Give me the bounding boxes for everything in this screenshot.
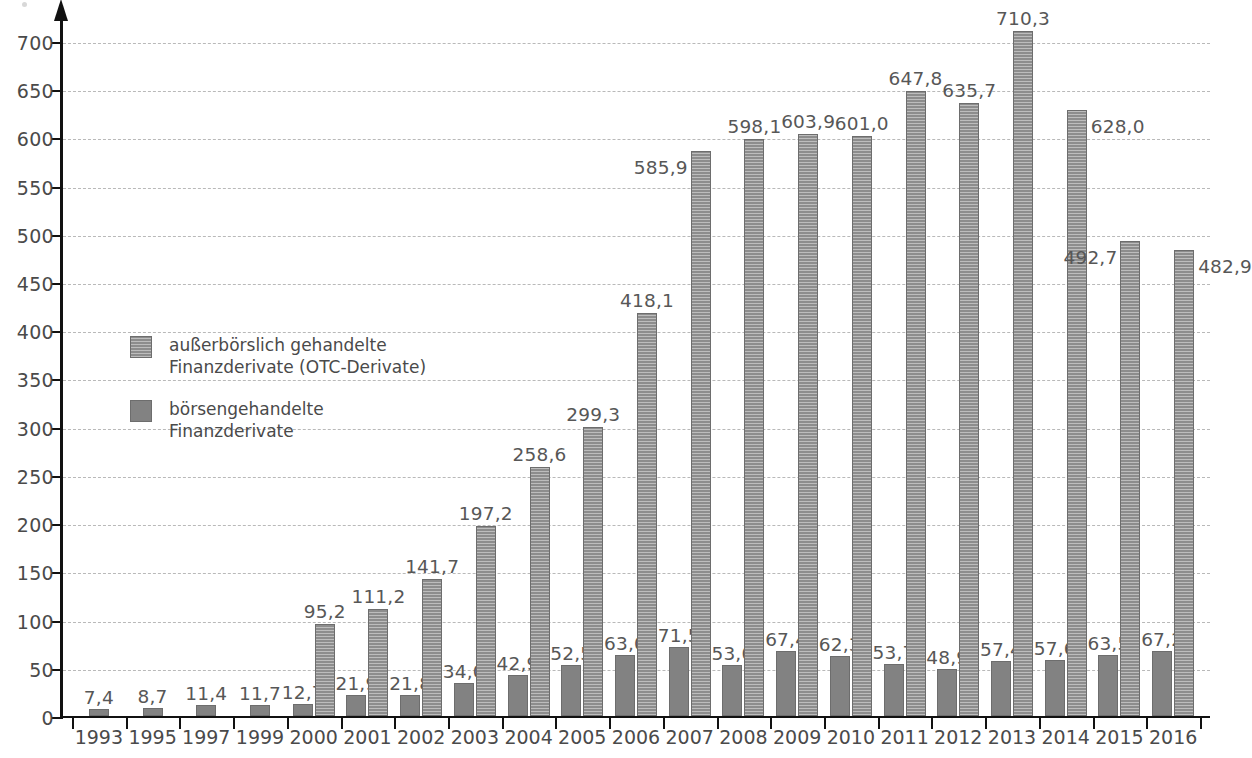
x-axis-tick-label: 2000 [290,726,338,748]
x-axis-tick-label: 2011 [880,726,928,748]
x-axis-tick-label: 1993 [75,726,123,748]
bar-value-label: 492,7 [1063,247,1117,268]
bar-exchange-traded: 11,4 [196,705,216,716]
bar-otc: 111,2 [368,609,388,716]
bar-group: 63,5492,7 [1093,241,1147,716]
bar-otc: 710,3 [1013,31,1033,716]
y-axis-tick-label: 700 [17,32,54,54]
bar-value-label: 8,7 [138,686,168,707]
bar-value-label: 95,2 [304,601,346,622]
bar-group: 12,795,2 [287,624,341,716]
bar-exchange-traded: 62,3 [830,656,850,716]
bar-exchange-traded: 11,7 [250,705,270,716]
bar-otc: 418,1 [637,313,657,716]
y-axis-tick-label: 650 [17,80,54,102]
x-axis-tick [1200,718,1202,729]
y-axis-tick-label: 200 [17,514,54,536]
x-axis-tick-label: 2012 [934,726,982,748]
bar-otc: 598,1 [744,139,764,716]
legend-item-exchange-traded: börsengehandelte Finanzderivate [130,398,430,442]
bar-group: 21,9111,2 [341,609,395,716]
legend-label-otc-line1: außerbörslich gehandelte [169,334,426,356]
bar-group: 7,4 [72,709,126,716]
bar-group: 67,4603,9 [770,134,824,716]
bar-group: 71,5585,9 [663,151,717,716]
y-axis-tick-label: 150 [17,562,54,584]
bar-value-label: 710,3 [996,8,1050,29]
y-axis-tick-label: 600 [17,128,54,150]
bar-group: 21,8141,7 [394,579,448,716]
bar-group: 53,0598,1 [717,139,771,716]
x-axis-tick-label: 2007 [666,726,714,748]
legend-swatch-exchange-traded-icon [130,400,152,422]
legend-label-otc-line2: Finanzderivate (OTC-Derivate) [169,356,426,378]
bar-group: 52,5299,3 [555,427,609,716]
y-axis-tick-label: 50 [29,659,54,681]
bar-exchange-traded: 12,7 [293,704,313,716]
bar-exchange-traded: 71,5 [669,647,689,716]
bar-group: 11,4 [179,705,233,716]
bar-group: 63,0418,1 [609,313,663,716]
x-axis-tick-label: 1999 [236,726,284,748]
x-axis-tick-label: 2009 [773,726,821,748]
bar-exchange-traded: 53,7 [884,664,904,716]
bar-value-label: 11,4 [185,683,227,704]
bar-group: 67,2482,9 [1146,250,1200,716]
bar-exchange-traded: 21,8 [400,695,420,716]
x-axis-tick-label: 2003 [451,726,499,748]
x-axis-tick-label: 2015 [1095,726,1143,748]
bar-value-label: 11,7 [239,683,281,704]
bar-exchange-traded: 8,7 [143,708,163,716]
x-axis-tick-label: 2002 [397,726,445,748]
bar-exchange-traded: 42,9 [508,675,528,716]
legend-label-exchange-traded-line1: börsengehandelte [169,398,324,420]
bar-exchange-traded: 52,5 [561,665,581,716]
x-axis-tick-label: 2001 [343,726,391,748]
x-axis-tick-label: 2005 [558,726,606,748]
bar-group: 53,7647,8 [878,91,932,716]
x-axis-tick-label: 2013 [988,726,1036,748]
bar-value-label: 7,4 [84,687,114,708]
legend-label-exchange-traded: börsengehandelte Finanzderivate [169,398,324,442]
legend-label-exchange-traded-line2: Finanzderivate [169,420,324,442]
bar-value-label: 585,9 [634,157,688,178]
y-axis-tick-label: 450 [17,273,54,295]
x-axis-tick-label: 1997 [182,726,230,748]
bar-value-label: 628,0 [1091,116,1145,137]
bar-otc: 482,9 [1174,250,1194,716]
bar-exchange-traded: 48,9 [937,669,957,716]
bar-otc: 601,0 [852,136,872,716]
bar-exchange-traded: 21,9 [346,695,366,716]
y-axis-tick-label: 250 [17,466,54,488]
x-axis-tick-label: 2006 [612,726,660,748]
y-axis-tick-label: 300 [17,418,54,440]
bar-otc: 95,2 [315,624,335,716]
bar-value-label: 603,9 [781,111,835,132]
bar-exchange-traded: 53,0 [722,665,742,716]
bar-otc: 258,6 [530,467,550,716]
legend-item-otc: außerbörslich gehandelte Finanzderivate … [130,334,430,378]
bar-group: 11,7 [233,705,287,716]
x-axis-tick-label: 2004 [504,726,552,748]
bar-group: 8,7 [126,708,180,716]
x-axis-tick-label: 1995 [128,726,176,748]
y-axis-tick-label: 500 [17,225,54,247]
bar-value-label: 482,9 [1198,256,1252,277]
y-axis-arrow-icon [54,0,68,21]
bar-otc: 197,2 [476,526,496,716]
bar-exchange-traded: 57,6 [1045,660,1065,716]
bar-exchange-traded: 67,2 [1152,651,1172,716]
bar-otc: 647,8 [906,91,926,716]
legend-label-otc: außerbörslich gehandelte Finanzderivate … [169,334,426,378]
bar-otc: 635,7 [959,103,979,716]
bar-exchange-traded: 7,4 [89,709,109,716]
bar-otc: 603,9 [798,134,818,716]
legend: außerbörslich gehandelte Finanzderivate … [130,334,430,462]
y-axis-tick-label: 550 [17,177,54,199]
y-axis-line [60,14,63,718]
bar-exchange-traded: 63,5 [1098,655,1118,716]
x-axis-tick-label: 2010 [827,726,875,748]
bar-group: 57,4710,3 [985,31,1039,716]
scan-artifact-dot [22,2,27,7]
